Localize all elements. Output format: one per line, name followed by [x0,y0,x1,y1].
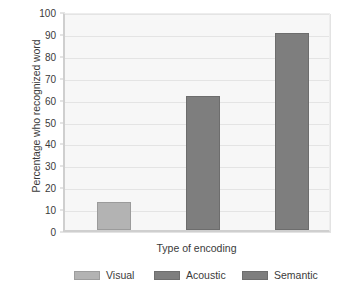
y-axis-tick-label: 50 [22,117,56,128]
x-axis-title: Type of encoding [63,242,330,254]
legend-label: Visual [106,269,134,281]
y-axis-tick-label: 80 [22,51,56,62]
y-axis-tick-labels: 0102030405060708090100 [22,13,56,232]
bar-acoustic [186,96,220,230]
y-axis-tick-label: 70 [22,73,56,84]
chart-legend: VisualAcousticSemantic [60,268,320,284]
legend-swatch-icon [242,271,268,280]
y-axis-tick-label: 100 [22,8,56,19]
bar-chart: Percentage who recognized word 010203040… [0,0,344,297]
bar-semantic [275,33,309,230]
plot-area [63,13,330,232]
legend-swatch-icon [74,271,100,280]
legend-item-visual[interactable]: Visual [74,268,134,282]
y-axis-tick-label: 0 [22,227,56,238]
y-axis-tick-label: 40 [22,139,56,150]
legend-item-acoustic[interactable]: Acoustic [154,268,226,282]
legend-item-semantic[interactable]: Semantic [242,268,318,282]
bar-visual [97,202,131,230]
y-axis-tick-label: 20 [22,183,56,194]
y-axis-tick-label: 60 [22,95,56,106]
bars-layer [65,14,329,230]
legend-label: Semantic [274,269,318,281]
y-axis-tick-label: 90 [22,29,56,40]
legend-label: Acoustic [186,269,226,281]
y-axis-tick-label: 10 [22,205,56,216]
y-axis-tick-label: 30 [22,161,56,172]
legend-swatch-icon [154,271,180,280]
